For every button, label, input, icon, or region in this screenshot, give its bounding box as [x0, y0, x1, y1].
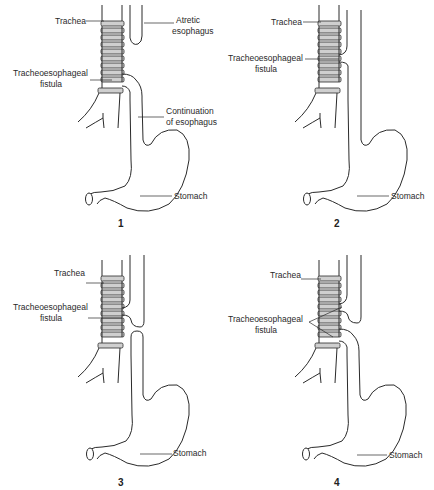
panel-3-fistula-label-line1: Tracheoesophageal — [13, 302, 88, 312]
panel-1-continuation-label-line1: Continuation — [166, 106, 214, 116]
panel-2-drawing — [295, 5, 407, 211]
panel-4-fistula-label-line2: fistula — [228, 325, 304, 335]
panel-4-number: 4 — [334, 477, 340, 488]
panel-2-fistula-label-line2: fistula — [228, 64, 304, 74]
panel-1-continuation-label-line2: of esophagus — [166, 117, 217, 127]
panel-1-atretic-esophagus-label-line1: Atretic — [176, 15, 200, 25]
panel-3-stomach-label: Stomach — [173, 448, 207, 458]
panel-3-fistula-label-line2: fistula — [13, 313, 89, 323]
panel-4-fistula-label-line1: Tracheoesophageal — [228, 314, 303, 324]
panel-2-trachea-label: Trachea — [271, 17, 302, 27]
panel-1-atretic-esophagus-label-line2: esophagus — [172, 26, 214, 36]
panel-1-fistula-label-line2: fistula — [13, 79, 89, 89]
panel-1-number: 1 — [118, 218, 124, 229]
panel-1-stomach-label: Stomach — [174, 191, 208, 201]
panel-2-number: 2 — [334, 218, 340, 229]
panel-3-trachea-label: Trachea — [54, 268, 85, 278]
panel-4-trachea-label: Trachea — [270, 270, 301, 280]
panel-3-drawing — [78, 255, 189, 466]
panel-1-trachea-label: Trachea — [55, 16, 86, 26]
panel-4-stomach-label: Stomach — [389, 450, 423, 460]
panel-1-fistula-label-line1: Tracheoesophageal — [13, 68, 88, 78]
panel-2-fistula-label-line1: Tracheoesophageal — [228, 53, 303, 63]
panel-4-drawing — [295, 255, 406, 466]
panel-3-number: 3 — [118, 477, 124, 488]
panel-2-stomach-label: Stomach — [391, 191, 425, 201]
